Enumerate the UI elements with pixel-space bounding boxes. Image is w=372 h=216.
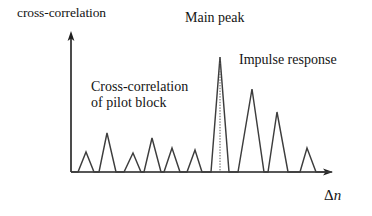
x-axis-variable: n [334,187,342,203]
correlation-waveform [71,57,332,172]
impulse-response-label: Impulse response [239,52,337,68]
y-axis-label: cross-correlation [17,5,106,20]
delta-symbol: Δ [324,187,334,203]
cross-correlation-annotation-line1: Cross-correlation [91,79,188,94]
y-axis [68,31,75,172]
x-axis-label: Δn [324,187,341,204]
cross-correlation-annotation-line2: of pilot block [91,95,188,111]
cross-correlation-annotation: Cross-correlationof pilot block [91,79,188,110]
main-peak-label: Main peak [185,10,244,26]
figure-container: cross-correlation Main peak Impulse resp… [0,0,372,216]
